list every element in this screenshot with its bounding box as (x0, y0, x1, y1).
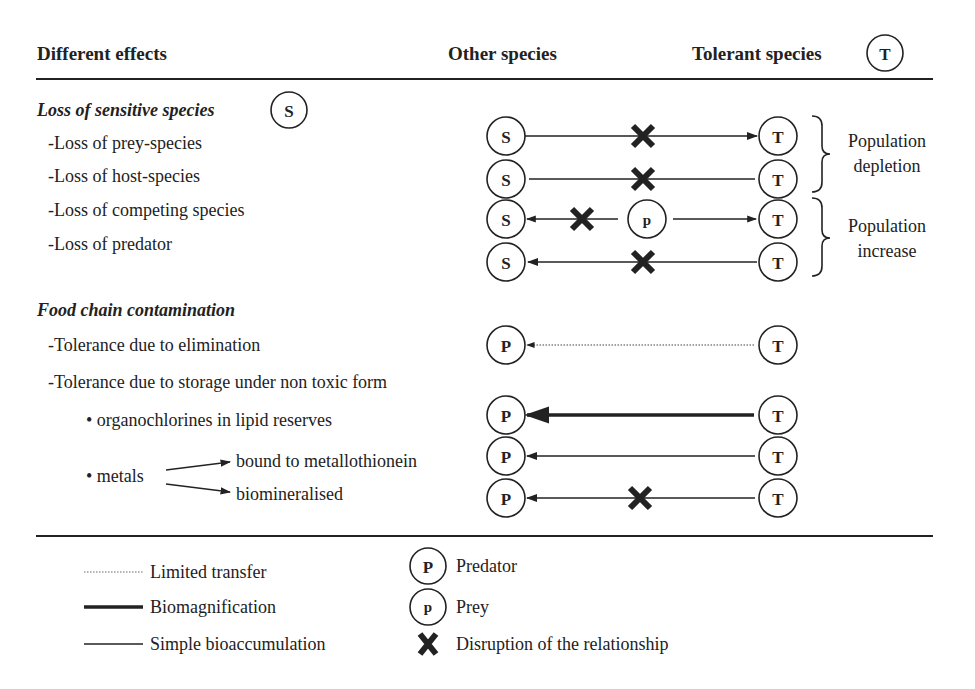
relation-row-biomineralised: P T (487, 479, 797, 517)
legend-item-predator: P Predator (410, 548, 517, 584)
header-different-effects: Different effects (37, 43, 167, 64)
legend: Limited transfer Biomagnification Simple… (84, 548, 668, 654)
svg-text:S: S (284, 102, 293, 121)
svg-text:Population: Population (848, 131, 926, 151)
svg-text:T: T (772, 171, 784, 190)
svg-text:Prey: Prey (456, 597, 489, 617)
svg-text:Disruption of the relationship: Disruption of the relationship (456, 634, 668, 654)
brace-population-increase: Population increase (812, 198, 926, 276)
svg-text:P: P (501, 407, 511, 426)
item-tolerance-storage: -Tolerance due to storage under non toxi… (48, 372, 387, 392)
svg-text:P: P (501, 448, 511, 467)
section-food-chain-contamination: Food chain contamination -Tolerance due … (36, 300, 797, 517)
relation-row-host: S T (487, 160, 797, 198)
svg-text:S: S (501, 171, 510, 190)
relation-row-metallothionein: P T (487, 437, 797, 475)
metals-branch-arrows (166, 462, 230, 492)
legend-item-disruption: Disruption of the relationship (420, 634, 668, 654)
legend-item-limited-transfer: Limited transfer (84, 562, 266, 582)
diagram-canvas: Different effects Other species Tolerant… (0, 0, 975, 689)
relation-row-competing: S p T (487, 200, 797, 238)
tolerant-symbol-icon: T (867, 35, 903, 71)
svg-text:Limited transfer: Limited transfer (150, 562, 266, 582)
svg-text:T: T (772, 128, 784, 147)
section-title: Food chain contamination (36, 300, 235, 320)
relation-row-elimination: P T (487, 326, 797, 364)
svg-text:T: T (879, 45, 891, 64)
section-loss-of-sensitive-species: Loss of sensitive species S -Loss of pre… (36, 92, 926, 281)
item-loss-of-competing: -Loss of competing species (48, 200, 244, 220)
svg-text:increase: increase (858, 241, 917, 261)
item-tolerance-elimination: -Tolerance due to elimination (48, 335, 260, 355)
legend-item-biomagnification: Biomagnification (84, 597, 276, 617)
sensitive-symbol-icon: S (271, 92, 307, 128)
svg-text:Predator: Predator (456, 556, 517, 576)
svg-text:P: P (501, 490, 511, 509)
relation-row-predator: S T (487, 243, 797, 281)
legend-item-prey: p Prey (410, 589, 489, 625)
svg-text:depletion: depletion (854, 156, 921, 176)
item-metallothionein: bound to metallothionein (236, 451, 417, 471)
svg-text:p: p (643, 212, 651, 228)
svg-text:Population: Population (848, 216, 926, 236)
svg-text:p: p (424, 599, 432, 615)
svg-text:T: T (772, 254, 784, 273)
section-title: Loss of sensitive species (36, 100, 214, 120)
item-metals: • metals (86, 466, 144, 486)
svg-text:P: P (423, 558, 433, 577)
legend-item-simple-bioaccumulation: Simple bioaccumulation (84, 634, 325, 654)
svg-text:T: T (772, 337, 784, 356)
item-loss-of-host: -Loss of host-species (48, 166, 200, 186)
svg-text:S: S (501, 128, 510, 147)
header-other-species: Other species (448, 43, 557, 64)
item-biomineralised: biomineralised (236, 484, 343, 504)
relation-row-organochlorines: P T (487, 396, 797, 434)
item-loss-of-prey: -Loss of prey-species (48, 133, 202, 153)
svg-text:T: T (772, 407, 784, 426)
relation-row-prey: S T (487, 117, 797, 155)
svg-text:S: S (501, 254, 510, 273)
svg-text:T: T (772, 448, 784, 467)
svg-text:Simple bioaccumulation: Simple bioaccumulation (150, 634, 325, 654)
brace-population-depletion: Population depletion (812, 116, 926, 192)
disruption-x-icon (420, 634, 436, 654)
svg-text:P: P (501, 337, 511, 356)
svg-text:Biomagnification: Biomagnification (150, 597, 276, 617)
item-organochlorines: • organochlorines in lipid reserves (86, 410, 332, 430)
svg-text:S: S (501, 211, 510, 230)
svg-text:T: T (772, 211, 784, 230)
item-loss-of-predator: -Loss of predator (48, 234, 172, 254)
svg-text:T: T (772, 490, 784, 509)
header-tolerant-species: Tolerant species (692, 43, 822, 64)
table-header: Different effects Other species Tolerant… (36, 35, 933, 79)
